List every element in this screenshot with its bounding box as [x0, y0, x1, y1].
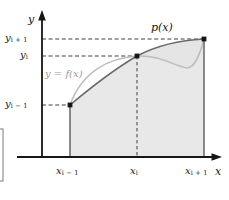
- y-tick-sub-i: i: [26, 53, 28, 61]
- figure-container: y x yi + 1 yi yi − 1 xi − 1 xi xi + 1 y …: [0, 0, 229, 200]
- y-axis-label: y: [28, 14, 34, 25]
- curve-label-f-of-x: y = f(x): [45, 69, 83, 79]
- curve-label-f-rhs: f(x): [65, 68, 82, 79]
- curve-label-f-equals: =: [51, 68, 66, 79]
- x-tick-sub-i-plus-1: i + 1: [191, 169, 208, 177]
- x-tick-label-i-plus-1: xi + 1: [185, 166, 208, 177]
- node-marker-ip1: [202, 37, 207, 42]
- cropped-panel-border: [0, 129, 3, 181]
- x-axis-label: x: [215, 166, 221, 177]
- y-tick-label-i-plus-1: yi + 1: [5, 33, 28, 44]
- x-axis-arrowhead: [212, 153, 223, 161]
- x-tick-sub-i-minus-1: i − 1: [62, 169, 79, 177]
- x-tick-sub-i: i: [136, 169, 138, 177]
- x-tick-label-i-minus-1: xi − 1: [56, 166, 79, 177]
- y-tick-sub-i-minus-1: i − 1: [11, 102, 28, 110]
- node-marker-i: [135, 54, 140, 59]
- curve-label-p-of-x: p(x): [151, 22, 173, 33]
- y-axis: [38, 10, 46, 157]
- y-tick-label-i: yi: [20, 50, 28, 61]
- y-axis-arrowhead: [38, 10, 46, 21]
- y-tick-label-i-minus-1: yi − 1: [5, 99, 28, 110]
- x-tick-label-i: xi: [130, 166, 138, 177]
- y-tick-sub-i-plus-1: i + 1: [11, 36, 28, 44]
- node-marker-im1: [68, 103, 73, 108]
